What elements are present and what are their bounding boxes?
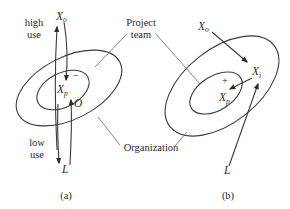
l-to-xi-arrow	[229, 84, 258, 166]
xo-label-b: Xo	[197, 20, 209, 34]
l-to-o-arrow	[70, 100, 71, 165]
xi-label: Xi	[251, 65, 261, 80]
xo-label-a: Xo	[55, 10, 67, 24]
high-use-label-2: use	[27, 29, 41, 40]
diagram-canvas: − high use low use Xo Xp O L (a) Project…	[0, 0, 290, 209]
minus-sign: −	[73, 70, 79, 81]
caption-a: (a)	[60, 190, 72, 202]
panel-a: − high use low use Xo Xp O L (a)	[4, 10, 134, 202]
l-label-b: L	[223, 164, 230, 176]
organization-leader-a	[98, 117, 120, 145]
project-team-leader-b	[156, 34, 200, 84]
project-team-ellipse-b	[182, 63, 249, 123]
project-team-label-1: Project	[126, 17, 156, 28]
low-use-down-arrow	[58, 104, 59, 163]
o-label: O	[74, 97, 83, 109]
xp-label-a: Xp	[56, 83, 68, 98]
xp-label-b: Xp	[218, 91, 230, 106]
l-label-a: L	[61, 163, 68, 175]
low-use-label-2: use	[30, 149, 44, 160]
shared-labels: Project team Organization	[95, 17, 200, 153]
organization-ellipse-a	[4, 35, 134, 142]
low-use-label-1: low	[29, 137, 45, 148]
caption-b: (b)	[222, 190, 235, 202]
project-team-label-2: team	[131, 29, 151, 40]
panel-b: Xo Xi + Xp L (b)	[147, 16, 290, 202]
plus-sign: +	[222, 75, 228, 86]
organization-label: Organization	[124, 142, 179, 153]
high-use-label-1: high	[25, 17, 44, 28]
